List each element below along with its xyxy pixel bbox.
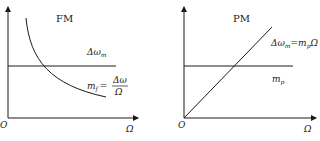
fm-origin-label: O <box>0 120 8 130</box>
fm-const-label: Δωm <box>86 47 107 58</box>
pm-title: PM <box>233 13 250 24</box>
fm-x-axis-label: Ω <box>125 124 134 134</box>
fm-panel: FM Δωm mf= Δω Ω O Ω <box>0 7 138 134</box>
pm-linear-line <box>184 27 272 118</box>
pm-x-axis-label: Ω <box>303 124 312 134</box>
fm-pm-diagram: FM Δωm mf= Δω Ω O Ω PM Δωm=mpΩ mp O Ω <box>0 0 320 141</box>
pm-line-label: Δωm=mpΩ <box>270 38 318 50</box>
pm-panel: PM Δωm=mpΩ mp O Ω <box>178 7 318 134</box>
fm-title: FM <box>56 13 73 24</box>
fm-curve-label: mf= <box>87 81 107 93</box>
fm-frac-den: Ω <box>114 87 123 97</box>
fm-frac-num: Δω <box>112 75 127 85</box>
pm-origin-label: O <box>178 120 186 130</box>
pm-const-label: mp <box>272 74 285 86</box>
